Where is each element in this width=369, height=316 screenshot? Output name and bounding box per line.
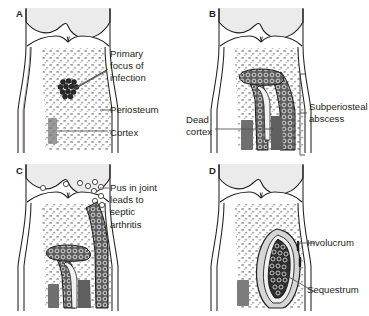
adjacent-bone-end	[219, 164, 303, 194]
callout-primary-focus-of-infection: Primary focus of infection	[110, 48, 146, 85]
adjacent-bone-end	[219, 8, 303, 38]
residual-cortex-marker	[237, 280, 249, 306]
callout-dead-cortex: Dead cortex	[186, 114, 212, 138]
callout-periosteum: Periosteum	[110, 104, 159, 116]
osteomyelitis-figure: A Primary focus of infection Periosteum …	[0, 0, 369, 316]
panel-c: C Pus in joint leads to septic arthritis	[0, 158, 184, 316]
callout-pus-in-joint: Pus in joint leads to septic arthritis	[110, 182, 157, 231]
epiphysis-outline	[27, 36, 109, 46]
epiphysis-outline	[220, 192, 302, 202]
panel-b: B Dead cortex Subperiosteal abscess	[185, 0, 369, 158]
cortex-marker	[48, 118, 57, 144]
panel-a-illustration	[0, 0, 184, 158]
panel-c-letter: C	[16, 165, 23, 176]
panel-b-illustration	[185, 0, 369, 158]
panel-b-letter: B	[209, 8, 216, 19]
adjacent-bone-end	[26, 164, 110, 194]
callout-cortex: Cortex	[110, 127, 138, 139]
adjacent-bone-end	[26, 8, 110, 38]
panel-a-letter: A	[16, 8, 23, 19]
epiphysis-outline	[220, 36, 302, 46]
panel-a: A Primary focus of infection Periosteum …	[0, 0, 184, 158]
panel-d: D Involucrum Sequestrum	[185, 158, 369, 316]
callout-involucrum: Involucrum	[307, 237, 354, 249]
callout-sequestrum: Sequestrum	[307, 284, 359, 296]
callout-subperiosteal-abscess: Subperiosteal abscess	[309, 101, 368, 125]
panel-d-letter: D	[209, 165, 216, 176]
